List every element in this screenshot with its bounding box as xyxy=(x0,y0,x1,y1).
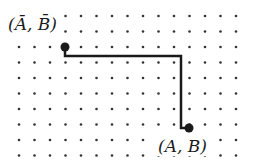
grid-dot xyxy=(204,77,207,80)
grid-dot xyxy=(219,46,222,49)
end-point-marker xyxy=(185,124,194,133)
grid-dot xyxy=(126,108,129,111)
grid-dot xyxy=(142,77,145,80)
grid-dot xyxy=(111,108,114,111)
grid-dot xyxy=(219,139,222,142)
grid-dot xyxy=(95,46,98,49)
grid-dot xyxy=(33,139,36,142)
grid-dot xyxy=(80,92,83,95)
grid-dot xyxy=(235,77,238,80)
grid-dot xyxy=(49,108,52,111)
grid-dot xyxy=(219,92,222,95)
grid-dot xyxy=(18,139,21,142)
grid-dot xyxy=(235,15,238,18)
grid-dot xyxy=(173,61,176,64)
grid-dot xyxy=(235,30,238,33)
grid-dot xyxy=(188,46,191,49)
grid-dot xyxy=(18,77,21,80)
grid-dot xyxy=(95,61,98,64)
grid-dot xyxy=(157,15,160,18)
grid-dot xyxy=(173,30,176,33)
grid-dot xyxy=(188,61,191,64)
grid-dot xyxy=(49,139,52,142)
grid-dot xyxy=(80,123,83,126)
grid-dot xyxy=(173,123,176,126)
grid-dot xyxy=(64,15,67,18)
grid-dot xyxy=(95,139,98,142)
grid-dot xyxy=(49,92,52,95)
grid-dot xyxy=(126,46,129,49)
grid-dot xyxy=(126,154,129,157)
grid-dot xyxy=(157,123,160,126)
grid-dot xyxy=(111,30,114,33)
grid-dot xyxy=(157,61,160,64)
grid-dot xyxy=(235,123,238,126)
grid-dot xyxy=(33,92,36,95)
grid-dot xyxy=(235,92,238,95)
grid-dot xyxy=(33,154,36,157)
grid-dot xyxy=(219,123,222,126)
grid-dot xyxy=(188,30,191,33)
grid-dot xyxy=(188,92,191,95)
grid-dot xyxy=(142,92,145,95)
grid-dot xyxy=(95,92,98,95)
grid-dot xyxy=(80,154,83,157)
grid-dot xyxy=(142,123,145,126)
grid-dot xyxy=(142,61,145,64)
grid-dot xyxy=(18,154,21,157)
grid-dot xyxy=(204,46,207,49)
grid-dot xyxy=(188,77,191,80)
grid-dot xyxy=(80,139,83,142)
grid-dot xyxy=(235,139,238,142)
grid-dot xyxy=(235,46,238,49)
grid-dot xyxy=(64,139,67,142)
grid-dot xyxy=(219,154,222,157)
grid-dot xyxy=(126,30,129,33)
grid-dot xyxy=(142,139,145,142)
grid-dot xyxy=(80,61,83,64)
grid-dot xyxy=(204,123,207,126)
grid-dot xyxy=(173,15,176,18)
grid-dot xyxy=(95,123,98,126)
grid-dot xyxy=(235,61,238,64)
grid-dot xyxy=(18,46,21,49)
grid-dot xyxy=(142,30,145,33)
grid-dot xyxy=(64,61,67,64)
grid-dot xyxy=(173,108,176,111)
grid-dot xyxy=(33,123,36,126)
grid-dot xyxy=(49,61,52,64)
grid-dot xyxy=(142,46,145,49)
grid-dot xyxy=(33,108,36,111)
grid-dot xyxy=(219,30,222,33)
grid-dot xyxy=(188,15,191,18)
grid-dot xyxy=(111,139,114,142)
lattice-diagram: (Ā, B̄) (A, B) xyxy=(0,0,256,167)
grid-dot xyxy=(204,92,207,95)
grid-dot xyxy=(157,30,160,33)
grid-dot xyxy=(111,92,114,95)
grid-dot xyxy=(80,30,83,33)
grid-dot xyxy=(173,77,176,80)
grid-dot xyxy=(33,61,36,64)
grid-dot xyxy=(142,108,145,111)
grid-dot xyxy=(18,61,21,64)
grid-dot xyxy=(33,77,36,80)
grid-dot xyxy=(142,154,145,157)
grid-dot xyxy=(111,154,114,157)
grid-dot xyxy=(126,61,129,64)
grid-dot xyxy=(126,92,129,95)
grid-dot xyxy=(219,61,222,64)
grid-dot xyxy=(111,15,114,18)
grid-dot xyxy=(18,92,21,95)
grid-dot xyxy=(64,30,67,33)
grid-dot xyxy=(188,108,191,111)
grid-dot xyxy=(64,123,67,126)
grid-dot xyxy=(64,92,67,95)
grid-dot xyxy=(157,108,160,111)
grid-dot xyxy=(18,108,21,111)
grid-dot xyxy=(219,77,222,80)
grid-dot xyxy=(126,77,129,80)
grid-dot xyxy=(33,46,36,49)
grid-dot xyxy=(18,123,21,126)
grid-dot xyxy=(173,92,176,95)
